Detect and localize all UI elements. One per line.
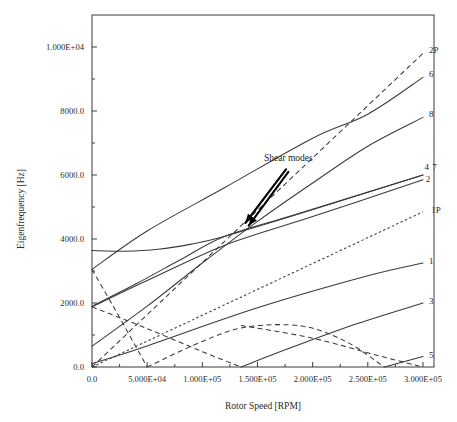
y-tick-label: 2000.0 [60, 298, 84, 308]
curve-1 [92, 263, 423, 364]
curve-label-5: 5 [429, 350, 434, 360]
y-tick-label: 8000.0 [60, 106, 84, 116]
y-axis-title: Eigenfrequency [Hz] [16, 169, 26, 249]
curve-3 [241, 303, 423, 367]
x-tick-label: 1.000E+05 [183, 374, 221, 384]
x-tick-label: 3.000E+05 [404, 374, 442, 384]
y-tick-label: 0.0 [73, 362, 84, 372]
curve-label-1p: 1P [431, 205, 441, 215]
y-tick-label: 4000.0 [60, 234, 84, 244]
curve-label-7: 7 [432, 162, 437, 172]
curve-2P [92, 53, 423, 367]
curve-backward-4 [241, 325, 423, 367]
annotation-shear-modes: Shear modes [264, 153, 313, 163]
curve-label-4: 4 [425, 162, 430, 172]
curve-2 [92, 180, 423, 307]
tick-labels: 0.05.000E+041.000E+051.500E+052.000E+052… [46, 42, 442, 384]
curve-label-8: 8 [429, 109, 434, 119]
curve-label-2: 2 [426, 174, 431, 184]
x-tick-label: 1.500E+05 [238, 374, 276, 384]
curve-8 [92, 117, 423, 346]
y-tick-label: 1.000E+04 [46, 42, 85, 52]
curve-set [92, 53, 423, 367]
y-tick-label: 6000.0 [60, 170, 84, 180]
curve-backward-3 [147, 325, 384, 367]
shear-modes-arrow [249, 172, 289, 226]
curve-label-3: 3 [429, 296, 434, 306]
curve-label-2p: 2P [429, 45, 439, 55]
x-tick-label: 2.000E+05 [294, 374, 332, 384]
x-tick-label: 5.000E+04 [128, 374, 167, 384]
chart-canvas: Shear modes 0.05.000E+041.000E+051.500E+… [0, 0, 457, 422]
x-axis-title: Rotor Speed [RPM] [225, 401, 301, 411]
campbell-diagram-figure: Shear modes 0.05.000E+041.000E+051.500E+… [0, 0, 457, 422]
x-tick-label: 0.0 [87, 374, 98, 384]
curve-6 [92, 77, 423, 269]
plot-frame [92, 15, 434, 367]
curve-label-6: 6 [429, 69, 434, 79]
curve-labels: 2P684721P135 [425, 45, 441, 360]
curve-label-1: 1 [429, 256, 434, 266]
curve-7 [92, 175, 423, 306]
x-tick-label: 2.500E+05 [349, 374, 387, 384]
